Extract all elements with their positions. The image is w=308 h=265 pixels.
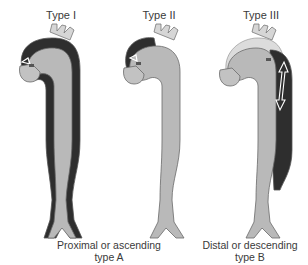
caption-distal-line2: type B [200,251,300,263]
caption-proximal-line1: Proximal or ascending [44,239,174,251]
caption-proximal-type-a: Proximal or ascending type A [44,239,174,263]
caption-distal-type-b: Distal or descending type B [200,239,300,263]
aorta-type-i [19,24,82,238]
caption-proximal-line2: type A [44,251,174,263]
aortic-dissection-diagram [0,0,308,265]
aorta-type-iii [219,24,292,238]
caption-distal-line1: Distal or descending [200,239,300,251]
aorta-type-ii [123,24,184,238]
